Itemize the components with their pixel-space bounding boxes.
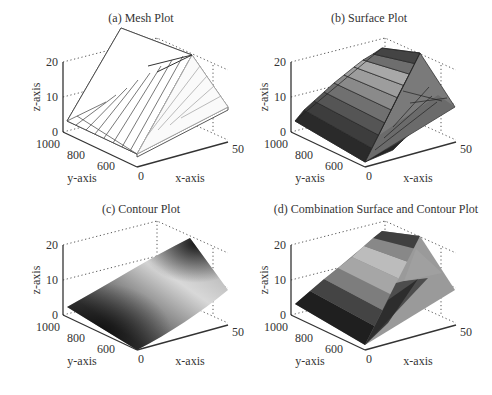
- panel-c: (c) Contour Plot 20 10 0 1000 800 600 0 …: [29, 202, 244, 368]
- y-tick: 800: [67, 148, 85, 162]
- z-axis-label: z-axis: [257, 265, 271, 294]
- x-axis-label: x-axis: [175, 171, 205, 185]
- z-tick: 20: [46, 238, 58, 252]
- y-axis-label: y-axis: [295, 354, 325, 368]
- panel-title: (b) Surface Plot: [331, 11, 408, 25]
- y-tick: 1000: [264, 320, 288, 334]
- panel-title: (a) Mesh Plot: [108, 11, 174, 25]
- z-axis-label: z-axis: [29, 265, 43, 294]
- z-axis-label: z-axis: [257, 82, 271, 111]
- figure-canvas: (a) Mesh Plot: [0, 0, 492, 395]
- panel-title: (d) Combination Surface and Contour Plot: [274, 202, 479, 216]
- y-tick: 800: [67, 331, 85, 345]
- y-tick: 1000: [264, 137, 288, 151]
- y-tick: 600: [97, 159, 115, 173]
- y-axis-label: y-axis: [67, 171, 97, 185]
- panel-a: (a) Mesh Plot: [29, 11, 244, 185]
- y-tick: 800: [295, 331, 313, 345]
- x-tick: 50: [460, 325, 472, 339]
- panel-b: (b) Surface Plot: [257, 11, 472, 185]
- y-tick: 600: [97, 342, 115, 356]
- z-tick: 10: [46, 273, 58, 287]
- z-axis-label: z-axis: [29, 82, 43, 111]
- z-tick: 10: [46, 90, 58, 104]
- y-axis-label: y-axis: [295, 171, 325, 185]
- x-tick: 0: [138, 352, 144, 366]
- panel-d: (d) Combination Surface and Contour Plot: [257, 202, 479, 368]
- x-axis-label: x-axis: [403, 171, 433, 185]
- x-tick: 0: [138, 169, 144, 183]
- mesh-surface: [67, 28, 228, 157]
- x-axis-label: x-axis: [175, 354, 205, 368]
- shaded-surface: [67, 238, 228, 350]
- x-tick: 0: [366, 169, 372, 183]
- z-tick: 10: [274, 90, 286, 104]
- z-tick: 20: [274, 55, 286, 69]
- x-tick: 50: [232, 142, 244, 156]
- x-tick: 50: [460, 142, 472, 156]
- z-tick: 20: [274, 238, 286, 252]
- y-axis-label: y-axis: [67, 354, 97, 368]
- y-tick: 1000: [36, 137, 60, 151]
- y-tick: 600: [325, 342, 343, 356]
- z-tick: 10: [274, 273, 286, 287]
- x-axis-label: x-axis: [403, 354, 433, 368]
- x-tick: 0: [366, 352, 372, 366]
- x-tick: 50: [232, 325, 244, 339]
- y-tick: 600: [325, 159, 343, 173]
- y-tick: 1000: [36, 320, 60, 334]
- z-tick: 20: [46, 55, 58, 69]
- panel-title: (c) Contour Plot: [102, 202, 181, 216]
- y-tick: 800: [295, 148, 313, 162]
